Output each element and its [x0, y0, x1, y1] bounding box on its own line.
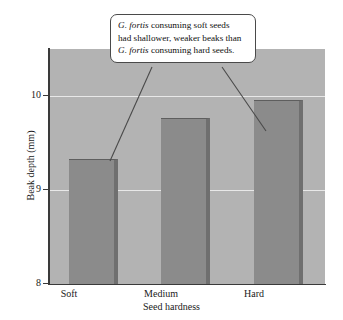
callout-species-2: G. fortis [118, 45, 149, 55]
bar-chart-figure: 10 9 8 Beak depth (mm) Soft Medium Hard … [0, 0, 343, 320]
callout-line-3: G. fortis consuming hard seeds. [118, 44, 249, 57]
x-axis-title: Seed hardness [0, 301, 343, 312]
gridline-10 [49, 96, 325, 97]
x-tick-label-medium: Medium [126, 288, 196, 299]
callout-text-3: consuming hard seeds. [149, 45, 235, 55]
y-tick-label-8: 8 [19, 278, 41, 288]
bar-medium[interactable] [161, 118, 210, 284]
callout-species-1: G. fortis [118, 20, 149, 30]
plot-area [49, 49, 325, 284]
y-tick-mark-10 [43, 95, 49, 97]
annotation-callout: G. fortis consuming soft seeds had shall… [110, 14, 256, 63]
y-axis-title: Beak depth (mm) [25, 86, 36, 246]
callout-line-1: G. fortis consuming soft seeds [118, 19, 249, 32]
y-axis-line [48, 48, 50, 285]
y-tick-mark-9 [43, 189, 49, 191]
y-tick-mark-8 [43, 283, 49, 285]
x-axis-line [48, 284, 326, 286]
bar-hard[interactable] [254, 100, 303, 284]
callout-line-2: had shallower, weaker beaks than [118, 32, 249, 45]
x-tick-label-soft: Soft [34, 288, 104, 299]
x-tick-label-hard: Hard [219, 288, 289, 299]
callout-text-1: consuming soft seeds [149, 20, 230, 30]
bar-soft[interactable] [69, 159, 118, 284]
